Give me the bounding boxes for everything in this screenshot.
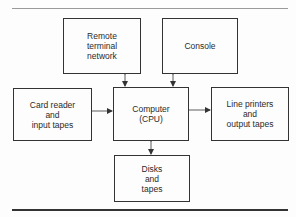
node-remote-terminal-network: Remote terminal network (63, 18, 141, 74)
node-card-reader: Card reader and input tapes (13, 88, 92, 141)
node-console: Console (162, 18, 238, 74)
node-computer-cpu: Computer (CPU) (113, 87, 189, 141)
node-disks-and-tapes: Disks and tapes (114, 155, 190, 202)
bottom-rule (12, 209, 288, 211)
node-line-printers: Line printers and output tapes (211, 87, 289, 141)
